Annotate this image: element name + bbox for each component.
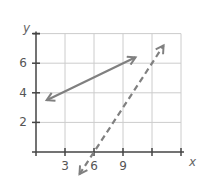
solid-line — [47, 57, 136, 100]
y-axis-label: y — [22, 21, 31, 35]
x-tick-label: 3 — [61, 159, 69, 173]
x-tick-label: 6 — [90, 159, 98, 173]
y-tick-label: 6 — [19, 56, 27, 70]
grid-lines — [36, 34, 181, 152]
y-tick-label: 2 — [19, 115, 27, 129]
axes — [32, 32, 184, 156]
coordinate-plane-chart: 369246 x y — [0, 0, 203, 188]
x-axis-label: x — [188, 155, 197, 169]
x-tick-label: 9 — [119, 159, 127, 173]
plotted-lines — [47, 45, 164, 174]
y-tick-label: 4 — [19, 86, 27, 100]
